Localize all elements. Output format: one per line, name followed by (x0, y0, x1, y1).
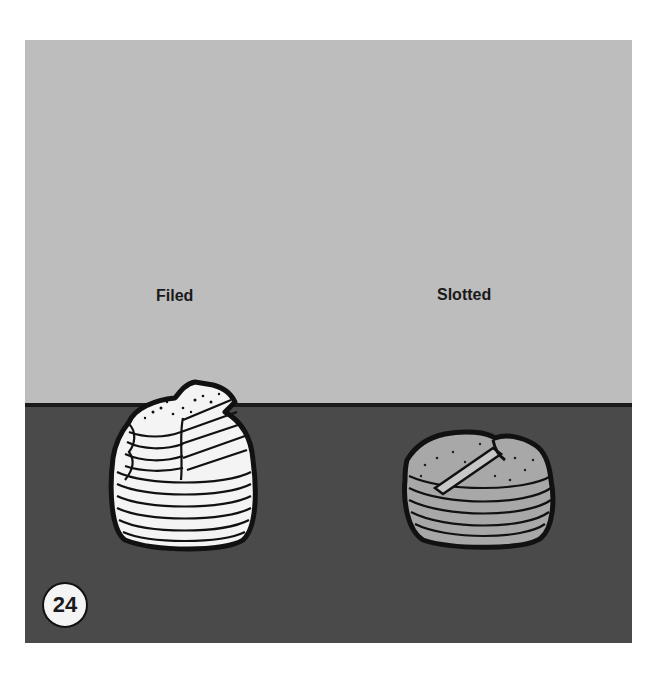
figure-number: 24 (53, 592, 77, 618)
slotted-stack-icon (405, 432, 553, 547)
figure-number-badge: 24 (42, 582, 88, 628)
stacks-illustration (25, 40, 632, 643)
filed-stack-icon (111, 382, 255, 549)
illustration-panel: Filed Slotted (25, 40, 632, 643)
